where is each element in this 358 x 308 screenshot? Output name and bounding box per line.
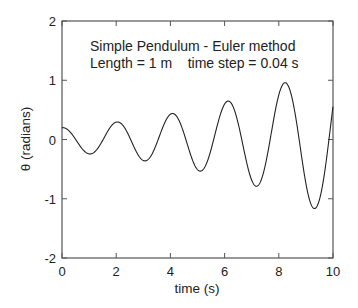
annotation-title: Simple Pendulum - Euler method <box>90 38 295 54</box>
x-tick-label: 4 <box>167 264 174 279</box>
y-tick-label: 0 <box>49 133 56 148</box>
pendulum-chart: 0246810-2-1012 Simple Pendulum - Euler m… <box>0 0 358 308</box>
theta-curve <box>62 83 333 209</box>
x-tick-label: 10 <box>326 264 340 279</box>
y-tick-label: 2 <box>49 14 56 29</box>
y-tick-label: -1 <box>44 192 56 207</box>
annotation-params: Length = 1 m time step = 0.04 s <box>90 55 299 71</box>
x-tick-label: 2 <box>113 264 120 279</box>
x-tick-label: 0 <box>58 264 65 279</box>
y-tick-label: -2 <box>44 251 56 266</box>
x-tick-label: 6 <box>221 264 228 279</box>
y-axis-label: θ (radians) <box>18 107 33 172</box>
x-axis-label: time (s) <box>175 281 220 296</box>
x-tick-label: 8 <box>275 264 282 279</box>
y-tick-label: 1 <box>49 73 56 88</box>
